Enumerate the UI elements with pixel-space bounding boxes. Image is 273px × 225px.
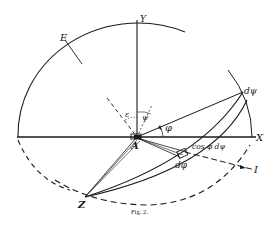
outer-circle-dashed-arc bbox=[18, 140, 70, 190]
label-i: I bbox=[253, 164, 259, 175]
figure-caption: Fig. 2. bbox=[131, 208, 148, 215]
origin-fill bbox=[134, 135, 141, 139]
e-dashed-line bbox=[107, 98, 137, 137]
ray-a-mid bbox=[137, 138, 183, 155]
lower-dashed-arc bbox=[55, 145, 250, 205]
label-dpsi: dψ bbox=[244, 86, 258, 96]
label-phi: φ bbox=[165, 122, 172, 133]
e-line bbox=[65, 40, 82, 64]
i-arrow-icon bbox=[240, 165, 246, 169]
label-psi: ψ bbox=[142, 113, 149, 122]
label-a: A bbox=[130, 140, 139, 151]
right-circle-arc bbox=[228, 70, 252, 137]
line-a-dpsi bbox=[137, 92, 243, 137]
label-y: Y bbox=[140, 14, 147, 24]
celestial-sphere-diagram: Y X E A Z I ε ψ φ dψ dφ cos φ dψ Fig. 2. bbox=[0, 0, 273, 225]
label-dphi: dφ bbox=[175, 160, 188, 170]
label-z: Z bbox=[77, 199, 86, 210]
outer-circle-solid-arc bbox=[18, 23, 185, 137]
label-e: E bbox=[59, 32, 68, 43]
ray-a-dphi bbox=[137, 138, 180, 157]
phi-arrow-icon bbox=[158, 125, 162, 130]
label-cos-phi-dpsi: cos φ dψ bbox=[192, 142, 225, 151]
label-epsilon: ε bbox=[125, 110, 129, 119]
ray-a-cosdpsi bbox=[137, 138, 186, 152]
label-x: X bbox=[255, 132, 264, 143]
